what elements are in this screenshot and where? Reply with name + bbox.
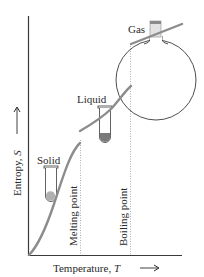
entropy-temperature-diagram: Gas Liquid Solid Melting point Boiling p… <box>0 0 204 277</box>
liquid-label: Liquid <box>77 93 107 105</box>
solid-label: Solid <box>37 154 61 166</box>
y-axis-label: Entropy, S <box>11 107 23 196</box>
boiling-point-label: Boiling point <box>117 188 129 246</box>
melting-point-label: Melting point <box>67 186 79 246</box>
gas-flask-icon <box>116 21 196 120</box>
gas-label: Gas <box>128 23 145 35</box>
svg-text:Temperature, T: Temperature, T <box>53 262 121 274</box>
x-axis-label: Temperature, T <box>53 262 159 274</box>
svg-text:Entropy, S: Entropy, S <box>11 150 23 196</box>
